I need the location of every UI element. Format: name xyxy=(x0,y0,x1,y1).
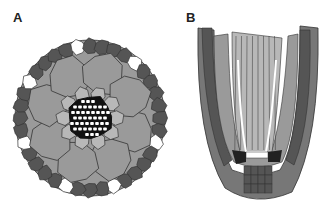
columella-cell xyxy=(251,166,258,175)
vascular-cell xyxy=(85,122,89,125)
vascular-cell xyxy=(98,116,102,119)
columella-cell xyxy=(265,166,272,175)
vascular-cell xyxy=(78,116,82,119)
vascular-cell xyxy=(75,122,79,125)
vascular-cell xyxy=(80,122,84,125)
vascular-cell xyxy=(103,116,107,119)
vascular-cell xyxy=(93,105,97,108)
vascular-cell xyxy=(78,127,82,130)
vascular-cell xyxy=(91,100,95,103)
columella-cell xyxy=(251,175,258,184)
columella-cell xyxy=(258,166,265,175)
vascular-cell xyxy=(83,116,87,119)
vascular-cell xyxy=(70,122,74,125)
vascular-cell xyxy=(93,127,97,130)
vascular-cell xyxy=(78,105,82,108)
vascular-cell xyxy=(100,122,104,125)
vascular-cell xyxy=(73,116,77,119)
columella-cell xyxy=(265,184,272,193)
vascular-cell xyxy=(88,105,92,108)
vascular-cell xyxy=(96,111,100,114)
quiescent-center xyxy=(246,152,268,158)
vascular-cell xyxy=(93,116,97,119)
epidermis-cell xyxy=(14,124,28,139)
longitudinal-section xyxy=(198,26,318,199)
vascular-cell xyxy=(105,122,109,125)
columella-cell xyxy=(244,184,251,193)
vascular-cell xyxy=(106,111,110,114)
vascular-cell xyxy=(85,133,89,136)
vascular-cell xyxy=(73,105,77,108)
vascular-cell xyxy=(71,111,75,114)
vascular-cell xyxy=(86,100,90,103)
transverse-section xyxy=(13,38,168,198)
vascular-cell xyxy=(90,133,94,136)
vascular-cell xyxy=(91,111,95,114)
columella-cell xyxy=(244,175,251,184)
columella-cell xyxy=(258,175,265,184)
vascular-cell xyxy=(88,116,92,119)
vascular-cell xyxy=(95,122,99,125)
vascular-cell xyxy=(81,100,85,103)
vascular-cell xyxy=(101,111,105,114)
vascular-cell xyxy=(95,133,99,136)
vascular-cell xyxy=(86,111,90,114)
vascular-cell xyxy=(76,111,80,114)
vascular-cell xyxy=(98,105,102,108)
figure-canvas xyxy=(0,0,333,209)
vascular-cell xyxy=(83,127,87,130)
columella-cell xyxy=(265,175,272,184)
columella-cell xyxy=(244,166,251,175)
vascular-cell xyxy=(98,127,102,130)
vascular-cell xyxy=(90,122,94,125)
vascular-cell xyxy=(73,127,77,130)
vascular-cell xyxy=(103,105,107,108)
vascular-cell xyxy=(83,105,87,108)
columella-cell xyxy=(258,184,265,193)
vascular-cell xyxy=(88,127,92,130)
vascular-cell xyxy=(81,111,85,114)
stem-cell-initial xyxy=(268,150,282,162)
epidermis-cell xyxy=(153,112,168,125)
vascular-cell xyxy=(103,127,107,130)
columella-cell xyxy=(251,184,258,193)
